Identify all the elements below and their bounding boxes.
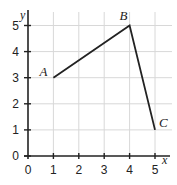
y-tick-label: 4 bbox=[12, 45, 19, 59]
axes bbox=[24, 10, 170, 159]
x-tick-label: 0 bbox=[25, 163, 32, 177]
point-label-c: C bbox=[159, 115, 168, 130]
y-axis-label: y bbox=[19, 8, 26, 22]
x-tick-label: 5 bbox=[152, 163, 159, 177]
y-tick-label: 3 bbox=[12, 71, 19, 85]
point-label-b: B bbox=[120, 8, 128, 23]
point-label-a: A bbox=[38, 64, 47, 79]
y-tick-label: 1 bbox=[12, 123, 19, 137]
x-tick-label: 1 bbox=[50, 163, 57, 177]
x-tick-label: 2 bbox=[75, 163, 82, 177]
chart: 012345012345 ABC x y bbox=[0, 0, 177, 185]
x-tick-label: 3 bbox=[101, 163, 108, 177]
y-tick-label: 0 bbox=[12, 149, 19, 163]
y-tick-label: 5 bbox=[12, 19, 19, 33]
x-axis-label: x bbox=[161, 153, 168, 167]
grid bbox=[28, 12, 172, 156]
y-tick-label: 2 bbox=[12, 97, 19, 111]
ticks: 012345012345 bbox=[12, 19, 158, 178]
x-tick-label: 4 bbox=[126, 163, 133, 177]
